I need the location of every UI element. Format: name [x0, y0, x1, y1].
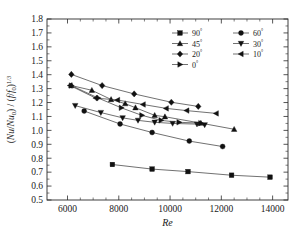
- legend-degree: °: [261, 49, 263, 55]
- chart-legend: 90°60°45°30°20°10°0°: [172, 28, 263, 69]
- legend-label: 10°: [253, 49, 263, 59]
- series-45deg: [69, 83, 237, 132]
- legend-label: 30°: [253, 39, 263, 49]
- y-axis-title-text: (Nu/Nu0) / (f/f0)1/3: [5, 76, 17, 144]
- marker-diamond: [99, 82, 105, 88]
- legend-label: 90°: [192, 28, 202, 38]
- chart-plot-area: 60008000100001200014000 0.50.60.70.80.91…: [0, 0, 301, 239]
- y-tick-label: 1.7: [31, 28, 43, 38]
- y-tick-label: 0.6: [31, 181, 43, 191]
- marker-triangle-right: [178, 62, 183, 68]
- marker-circle: [220, 144, 225, 149]
- marker-triangle-up: [133, 105, 139, 110]
- legend-entry-60: 60°: [233, 28, 263, 38]
- marker-triangle-left: [184, 108, 189, 114]
- legend-entry-45: 45°: [172, 39, 202, 49]
- x-axis-title-text: Re: [161, 217, 173, 228]
- marker-square: [186, 169, 191, 174]
- y-tick-label: 1.6: [31, 42, 43, 52]
- marker-circle: [239, 31, 244, 36]
- x-tick-label: 8000: [109, 204, 128, 214]
- legend-degree: °: [200, 49, 202, 55]
- series-90deg: [110, 162, 272, 179]
- marker-square: [229, 173, 234, 178]
- y-tick-label: 0.9: [31, 140, 43, 150]
- legend-degree: °: [200, 39, 202, 45]
- x-tick-label: 6000: [58, 204, 77, 214]
- legend-entry-90: 90°: [172, 28, 202, 38]
- y-tick-label: 1.3: [31, 84, 43, 94]
- legend-degree: °: [196, 60, 198, 66]
- marker-triangle-right: [177, 120, 182, 126]
- legend-degree: °: [261, 28, 263, 34]
- marker-circle: [118, 121, 123, 126]
- marker-diamond: [196, 103, 202, 109]
- marker-square: [150, 167, 155, 172]
- x-tick-label: 12000: [209, 204, 233, 214]
- marker-square: [268, 175, 273, 180]
- marker-triangle-up: [152, 112, 158, 117]
- marker-triangle-left: [140, 102, 145, 108]
- x-axis-title: Re: [161, 217, 173, 228]
- legend-label: 60°: [253, 28, 263, 38]
- legend-entry-0: 0°: [172, 60, 198, 70]
- marker-triangle-right: [96, 95, 101, 101]
- marker-diamond: [69, 71, 75, 77]
- marker-circle: [150, 130, 155, 135]
- legend-entry-30: 30°: [233, 39, 263, 49]
- series-line: [71, 86, 234, 130]
- marker-diamond: [169, 99, 175, 105]
- marker-square: [178, 31, 183, 36]
- y-tick-label: 1.8: [31, 14, 43, 24]
- series-20deg: [69, 71, 201, 109]
- y-tick-label: 0.5: [31, 195, 43, 205]
- marker-triangle-right: [140, 113, 145, 119]
- y-axis-title: (Nu/Nu0) / (f/f0)1/3: [5, 76, 17, 144]
- series-line: [112, 165, 270, 178]
- legend-degree: °: [261, 39, 263, 45]
- y-tick-label: 0.7: [31, 167, 43, 177]
- y-tick-label: 1.0: [31, 126, 43, 136]
- legend-entry-20: 20°: [172, 49, 202, 59]
- legend-degree: °: [200, 28, 202, 34]
- series-10deg: [67, 83, 218, 116]
- legend-label: 45°: [192, 39, 202, 49]
- legend-label: 0°: [192, 60, 198, 70]
- chart-figure: 60008000100001200014000 0.50.60.70.80.91…: [0, 0, 301, 239]
- y-tick-label: 1.1: [31, 112, 43, 122]
- y-tick-label: 1.5: [31, 56, 43, 66]
- marker-circle: [187, 139, 192, 144]
- marker-square: [110, 162, 115, 167]
- marker-triangle-left: [238, 51, 243, 57]
- marker-triangle-left: [213, 111, 218, 117]
- y-tick-label: 0.8: [31, 154, 43, 164]
- marker-circle: [82, 109, 87, 114]
- marker-triangle-left: [163, 106, 168, 112]
- marker-diamond: [131, 91, 137, 97]
- y-tick-labels: 0.50.60.70.80.91.01.11.21.31.41.51.61.71…: [31, 14, 43, 205]
- data-series-group: [67, 71, 272, 179]
- marker-triangle-left: [115, 97, 120, 103]
- y-tick-label: 1.2: [31, 98, 43, 108]
- y-tick-label: 1.4: [31, 70, 43, 80]
- marker-diamond: [177, 51, 183, 57]
- legend-entry-10: 10°: [233, 49, 263, 59]
- legend-label: 20°: [192, 49, 202, 59]
- x-tick-label: 14000: [261, 204, 285, 214]
- x-tick-labels: 60008000100001200014000: [58, 204, 285, 214]
- x-tick-label: 10000: [158, 204, 182, 214]
